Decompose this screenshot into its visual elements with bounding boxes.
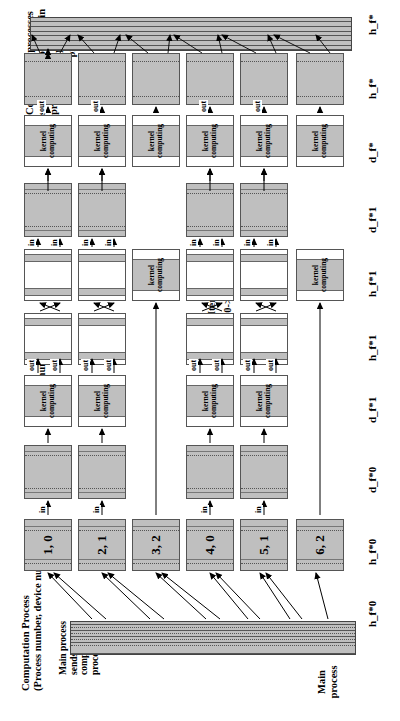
tag-out-final-p5: out bbox=[253, 99, 262, 112]
tag-in-d1-p4-a: in bbox=[189, 238, 198, 247]
tag-out-p2-b: out bbox=[104, 358, 113, 371]
tag-in-d1-p1-a: in bbox=[27, 238, 36, 247]
tag-in-d1-p4-b: in bbox=[212, 238, 221, 247]
tag-in-d1-p2-b: in bbox=[104, 238, 113, 247]
tag-out-p1-b: out bbox=[50, 358, 59, 371]
tag-out-final-p4: out bbox=[199, 99, 208, 112]
tag-out-p2-a: out bbox=[81, 358, 90, 371]
tag-in-p1: in bbox=[38, 505, 47, 514]
tag-in-d1-p5-a: in bbox=[243, 238, 252, 247]
tag-in-p2: in bbox=[92, 505, 101, 514]
tag-out-p4-a: out bbox=[189, 358, 198, 371]
diagram-canvas: Computation processes send results to th… bbox=[10, 11, 390, 711]
tag-in-d1-p5-b: in bbox=[266, 238, 275, 247]
tag-out-final-p1: out bbox=[37, 99, 46, 112]
tag-out-p1-a: out bbox=[27, 358, 36, 371]
tag-out-p5-b: out bbox=[266, 358, 275, 371]
tag-out-p5-a: out bbox=[243, 358, 252, 371]
tag-in-p4: in bbox=[200, 505, 209, 514]
tag-out-final-p2: out bbox=[91, 99, 100, 112]
figure-viewport: Computation processes send results to th… bbox=[0, 0, 400, 721]
tag-in-d1-p2-a: in bbox=[81, 238, 90, 247]
arrow-layer bbox=[10, 11, 390, 711]
tag-in-d1-p1-b: in bbox=[50, 238, 59, 247]
tag-in-p5: in bbox=[254, 505, 263, 514]
tag-out-p4-b: out bbox=[212, 358, 221, 371]
